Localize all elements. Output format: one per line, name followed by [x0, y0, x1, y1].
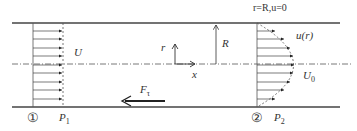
pipe-diagram — [0, 0, 357, 131]
section1-profile — [33, 23, 63, 107]
x-axis-label: x — [192, 69, 197, 80]
p2-label: P2 — [274, 112, 285, 126]
boundary-condition-label: r=R,u=0 — [253, 3, 287, 13]
section2-profile — [257, 23, 294, 107]
radius-label: R — [222, 38, 229, 49]
velocity-profile-label: u(r) — [296, 30, 313, 41]
r-axis-label: r — [161, 42, 165, 53]
center-velocity-label: U0 — [303, 70, 315, 84]
p1-label: P1 — [59, 112, 70, 126]
section2-marker: ② — [251, 111, 263, 124]
uniform-velocity-label: U — [74, 47, 82, 58]
section1-marker: ① — [27, 111, 39, 124]
friction-force-label: Fτ — [140, 84, 150, 98]
axes — [175, 25, 216, 64]
